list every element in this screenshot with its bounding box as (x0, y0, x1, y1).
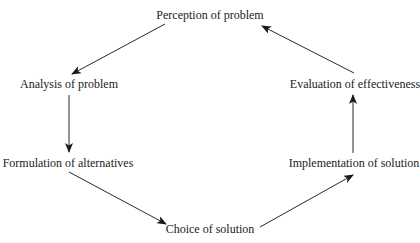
arrow-evaluation-to-perception (262, 26, 354, 73)
node-formulation-of-alternatives: Formulation of alternatives (3, 156, 134, 170)
node-analysis-of-problem: Analysis of problem (20, 77, 118, 91)
node-evaluation-of-effectiveness: Evaluation of effectiveness (290, 77, 420, 91)
arrow-formulation-to-choice (69, 172, 166, 224)
arrow-layer (0, 0, 420, 243)
arrow-perception-to-analysis (72, 24, 165, 74)
problem-solving-cycle-diagram: Perception of problem Analysis of proble… (0, 0, 420, 243)
node-choice-of-solution: Choice of solution (166, 222, 255, 236)
arrow-choice-to-implementation (260, 175, 353, 227)
node-perception-of-problem: Perception of problem (156, 8, 263, 22)
node-implementation-of-solution: Implementation of solution (289, 156, 420, 170)
